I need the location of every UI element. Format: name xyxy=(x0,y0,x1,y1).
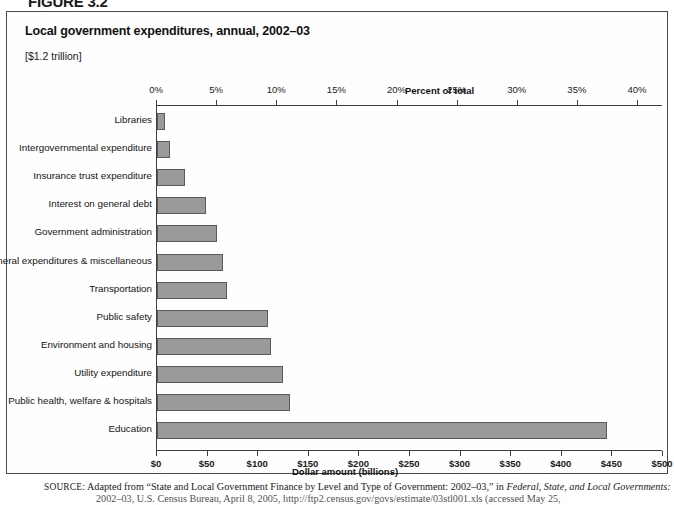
bottom-axis-tick xyxy=(662,451,663,456)
bar xyxy=(157,394,290,411)
bar-row: Transportation xyxy=(157,277,663,305)
category-label: Insurance trust expenditure xyxy=(33,170,152,181)
category-label: Environment and housing xyxy=(41,339,152,350)
bottom-axis-tick-label: $400 xyxy=(550,458,571,469)
top-axis-tick xyxy=(637,100,638,105)
bottom-axis-tick xyxy=(460,451,461,456)
bar-row: Intergovernmental expenditure xyxy=(157,136,663,164)
bar-row: General expenditures & miscellaneous xyxy=(157,249,663,277)
top-axis-tick-label: 0% xyxy=(149,84,163,95)
bottom-axis-tick-label: $100 xyxy=(247,458,268,469)
bottom-axis-tick-label: $50 xyxy=(199,458,215,469)
bar-row: Libraries xyxy=(157,108,663,136)
chart-title: Local government expenditures, annual, 2… xyxy=(25,24,310,38)
top-axis-tick-label: 35% xyxy=(567,84,586,95)
bottom-axis-tick-label: $0 xyxy=(151,458,162,469)
top-axis-tick xyxy=(276,100,277,105)
bar xyxy=(157,366,283,383)
top-axis-tick-label: 40% xyxy=(627,84,646,95)
bottom-axis-tick xyxy=(308,451,309,456)
bar xyxy=(157,310,268,327)
bar-row: Environment and housing xyxy=(157,333,663,361)
plot-area: 0%5%10%15%20%25%30%35%40% $0$50$100$150$… xyxy=(156,105,662,450)
chart-subtitle: [$1.2 trillion] xyxy=(25,50,82,62)
bottom-axis-tick-label: $150 xyxy=(297,458,318,469)
bar-row: Public safety xyxy=(157,305,663,333)
bar-row: Utility expenditure xyxy=(157,361,663,389)
top-axis-tick-label: 15% xyxy=(327,84,346,95)
bar xyxy=(157,113,165,130)
top-axis-tick xyxy=(457,100,458,105)
category-label: General expenditures & miscellaneous xyxy=(0,255,152,266)
bottom-axis-tick xyxy=(409,451,410,456)
top-axis-tick-label: 10% xyxy=(267,84,286,95)
bottom-axis-tick-label: $500 xyxy=(651,458,672,469)
source-publication: Federal, State, and Local Governments: xyxy=(507,481,671,492)
top-axis-tick-label: 5% xyxy=(209,84,223,95)
top-axis-tick xyxy=(336,100,337,105)
category-label: Intergovernmental expenditure xyxy=(19,142,152,153)
category-label: Government administration xyxy=(34,226,152,237)
bar xyxy=(157,254,223,271)
bottom-axis-tick xyxy=(561,451,562,456)
bar xyxy=(157,422,607,439)
bottom-axis-tick xyxy=(510,451,511,456)
bottom-axis-tick xyxy=(358,451,359,456)
top-axis-tick xyxy=(577,100,578,105)
figure-label: FIGURE 3.2 xyxy=(28,0,108,10)
bar-row: Government administration xyxy=(157,220,663,248)
top-axis-tick-label: 20% xyxy=(387,84,406,95)
category-label: Libraries xyxy=(114,114,152,125)
bar xyxy=(157,141,170,158)
category-label: Public health, welfare & hospitals xyxy=(8,395,152,406)
bar xyxy=(157,225,217,242)
bar-row: Education xyxy=(157,417,663,445)
source-prefix: SOURCE xyxy=(44,482,82,492)
bottom-axis-tick-label: $450 xyxy=(601,458,622,469)
bar xyxy=(157,282,227,299)
category-label: Education xyxy=(108,423,152,434)
bar xyxy=(157,197,206,214)
top-axis-tick xyxy=(156,100,157,105)
bottom-axis-tick-label: $200 xyxy=(348,458,369,469)
bar xyxy=(157,338,271,355)
bar-row: Insurance trust expenditure xyxy=(157,164,663,192)
bar-row: Interest on general debt xyxy=(157,192,663,220)
top-axis-tick xyxy=(517,100,518,105)
bottom-axis-tick-label: $350 xyxy=(500,458,521,469)
top-axis-line xyxy=(156,105,662,106)
top-axis-tick xyxy=(397,100,398,105)
category-label: Interest on general debt xyxy=(49,198,153,209)
figure-panel: Local government expenditures, annual, 2… xyxy=(6,11,668,474)
source-text: : Adapted from “State and Local Governme… xyxy=(82,481,506,492)
source-note-line2: 2002–03, U.S. Census Bureau, April 8, 20… xyxy=(96,493,674,504)
top-axis-tick-label: 25% xyxy=(447,84,466,95)
bottom-axis-tick-label: $300 xyxy=(449,458,470,469)
bottom-axis-tick xyxy=(207,451,208,456)
bar xyxy=(157,169,185,186)
source-note: SOURCE: Adapted from “State and Local Go… xyxy=(44,481,674,494)
category-label: Utility expenditure xyxy=(74,367,152,378)
top-axis-tick xyxy=(216,100,217,105)
bottom-axis-tick xyxy=(257,451,258,456)
bottom-axis-tick-label: $250 xyxy=(398,458,419,469)
top-axis-tick-label: 30% xyxy=(507,84,526,95)
bar-row: Public health, welfare & hospitals xyxy=(157,389,663,417)
bottom-axis-tick xyxy=(611,451,612,456)
category-label: Public safety xyxy=(96,311,152,322)
category-label: Transportation xyxy=(89,283,152,294)
bottom-axis-tick xyxy=(156,451,157,456)
